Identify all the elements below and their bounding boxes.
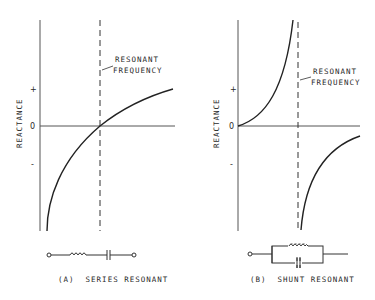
annotation-line1: RESONANT — [313, 67, 357, 76]
y-axis-label: REACTANCE — [212, 98, 221, 148]
tick-zero: 0 — [229, 122, 234, 131]
resonance-diagram: + 0 - REACTANCE RESONANT FREQUENCY (A) S… — [0, 0, 375, 300]
reactance-curve — [47, 89, 173, 231]
annotation-line2: FREQUENCY — [311, 78, 361, 87]
tick-minus: - — [31, 160, 34, 169]
annotation-leader — [102, 66, 113, 70]
tick-minus: - — [230, 160, 233, 169]
panel-series-resonant: + 0 - REACTANCE RESONANT FREQUENCY (A) S… — [15, 20, 175, 284]
tick-zero: 0 — [30, 122, 35, 131]
caption-a: (A) SERIES RESONANT — [58, 275, 168, 284]
series-circuit — [47, 250, 136, 260]
tick-plus: + — [30, 85, 37, 94]
panel-shunt-resonant: + 0 - REACTANCE RESONANT FREQUENCY (B) S… — [212, 20, 361, 284]
caption-b: (B) SHUNT RESONANT — [250, 275, 355, 284]
tick-plus: + — [230, 85, 237, 94]
reactance-curve-positive — [238, 20, 293, 126]
y-axis-label: REACTANCE — [15, 98, 24, 148]
annotation-line1: RESONANT — [115, 55, 159, 64]
annotation-leader — [300, 77, 311, 80]
reactance-curve-negative — [301, 136, 360, 230]
annotation-line2: FREQUENCY — [113, 66, 163, 75]
